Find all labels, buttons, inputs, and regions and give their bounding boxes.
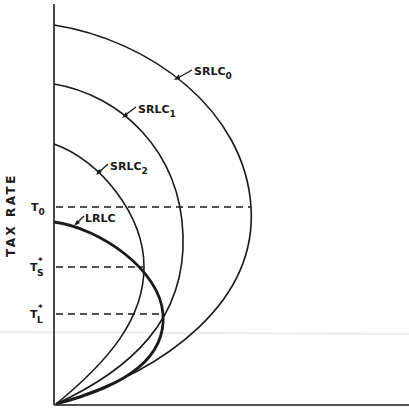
t0-label: T0 [31, 201, 45, 217]
srlc0-leader [174, 70, 192, 80]
scan-artifact [0, 332, 409, 334]
srlc1-leader [122, 107, 136, 118]
laffer-curve-diagram: SRLC0 SRLC1 SRLC2 LRLC T0 T * S T * L TA… [0, 0, 409, 416]
srlc1-label: SRLC1 [138, 103, 176, 119]
srlc2-leader [96, 164, 108, 175]
svg-text:*: * [38, 303, 43, 313]
lrlc-leader [74, 216, 84, 226]
srlc0-label: SRLC0 [194, 65, 232, 81]
svg-text:L: L [37, 315, 43, 325]
y-axis-title: TAX RATE [4, 173, 18, 257]
srlc2-curve [54, 144, 144, 404]
svg-text:S: S [37, 268, 43, 278]
lrlc-label: LRLC [85, 212, 116, 225]
ts-label: T * S [30, 256, 43, 278]
lrlc-curve [54, 222, 163, 404]
svg-text:*: * [38, 256, 43, 266]
srlc0-curve [54, 25, 251, 404]
tl-label: T * L [30, 303, 43, 325]
srlc2-label: SRLC2 [110, 160, 148, 176]
